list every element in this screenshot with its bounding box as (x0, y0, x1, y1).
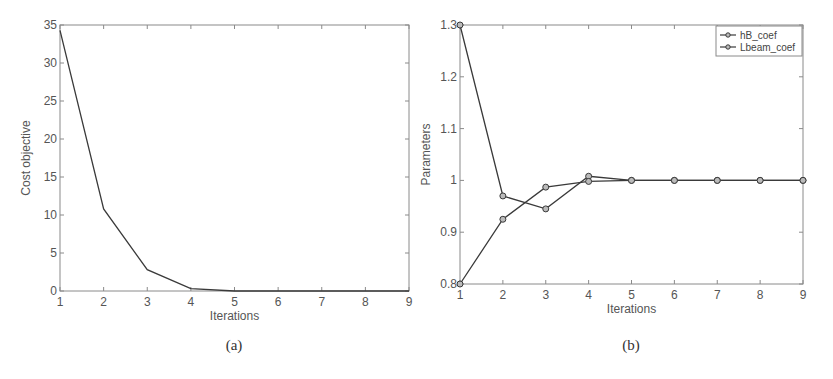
x-tick-label: 6 (671, 288, 678, 302)
chart-panel-a: 12345678905101520253035IterationsCost ob… (19, 18, 413, 354)
x-tick-label: 5 (231, 295, 238, 309)
plot-area (60, 25, 409, 291)
y-tick-label: 1 (450, 173, 457, 187)
y-tick-label: 0 (50, 284, 57, 298)
data-point-marker (671, 177, 677, 183)
y-tick-label: 1.3 (440, 18, 457, 32)
legend: hB_coefLbeam_coef (716, 26, 802, 56)
x-tick-label: 4 (188, 295, 195, 309)
x-tick-label: 8 (362, 295, 369, 309)
x-tick-label: 1 (57, 295, 64, 309)
data-point-marker (457, 22, 463, 28)
series-line-cost objective (60, 30, 409, 291)
chart-panel-b: 1234567890.80.911.11.21.3IterationsParam… (419, 18, 807, 354)
y-tick-label: 25 (44, 94, 58, 108)
figure: 12345678905101520253035IterationsCost ob… (0, 0, 833, 379)
y-tick-label: 20 (44, 132, 58, 146)
x-tick-label: 7 (318, 295, 325, 309)
x-tick-label: 8 (757, 288, 764, 302)
y-axis-label: Parameters (419, 123, 433, 185)
data-point-marker (500, 216, 506, 222)
x-axis-label: Iterations (210, 309, 259, 323)
x-tick-label: 3 (542, 288, 549, 302)
x-tick-label: 3 (144, 295, 151, 309)
panel-caption: (a) (226, 337, 243, 354)
x-tick-label: 2 (100, 295, 107, 309)
x-tick-label: 2 (500, 288, 507, 302)
data-point-marker (714, 177, 720, 183)
y-tick-label: 1.2 (440, 70, 457, 84)
panel-caption: (b) (622, 337, 640, 354)
x-tick-label: 4 (585, 288, 592, 302)
x-tick-label: 7 (714, 288, 721, 302)
y-axis-label: Cost objective (19, 120, 33, 196)
x-axis-label: Iterations (607, 302, 656, 316)
data-point-marker (543, 184, 549, 190)
data-point-marker (500, 193, 506, 199)
data-point-marker (457, 281, 463, 287)
y-tick-label: 0.8 (440, 277, 457, 291)
legend-marker-icon (726, 45, 730, 49)
legend-marker-icon (726, 33, 730, 37)
legend-entry-label: hB_coef (740, 30, 777, 41)
x-tick-label: 6 (275, 295, 282, 309)
legend-entry-label: Lbeam_coef (740, 42, 795, 53)
y-tick-label: 0.9 (440, 225, 457, 239)
data-point-marker (586, 178, 592, 184)
data-point-marker (800, 177, 806, 183)
x-tick-label: 1 (457, 288, 464, 302)
y-tick-label: 15 (44, 170, 58, 184)
y-tick-label: 35 (44, 18, 58, 32)
data-point-marker (629, 177, 635, 183)
x-tick-label: 9 (800, 288, 807, 302)
x-tick-label: 5 (628, 288, 635, 302)
plot-area (460, 25, 803, 284)
data-point-marker (757, 177, 763, 183)
y-tick-label: 5 (50, 246, 57, 260)
series-line-lbeam-coef (460, 180, 803, 284)
y-tick-label: 10 (44, 208, 58, 222)
data-point-marker (543, 206, 549, 212)
y-tick-label: 1.1 (440, 122, 457, 136)
x-tick-label: 9 (406, 295, 413, 309)
y-tick-label: 30 (44, 56, 58, 70)
